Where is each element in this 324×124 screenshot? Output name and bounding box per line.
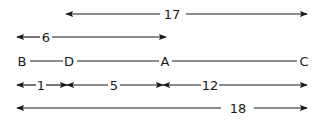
measure-label-ac: 12 xyxy=(202,78,219,93)
measure-label-dc: 17 xyxy=(164,7,181,22)
measure-label-ba: 6 xyxy=(42,30,50,45)
measure-bd-1: 1 xyxy=(17,78,67,93)
segment-diagram: 17 6 B D A C 1 5 12 18 xyxy=(0,0,324,124)
measure-dc-17: 17 xyxy=(66,7,307,22)
measure-da-5: 5 xyxy=(67,78,163,93)
measure-ac-12: 12 xyxy=(163,78,307,93)
measure-label-da: 5 xyxy=(110,78,118,93)
point-a: A xyxy=(161,54,170,69)
measure-ba-6: 6 xyxy=(17,30,166,45)
measure-label-bd: 1 xyxy=(37,78,45,93)
point-c: C xyxy=(299,54,308,69)
main-segment: B D A C xyxy=(18,54,309,69)
measure-bc-18: 18 xyxy=(17,101,307,116)
measure-label-bc: 18 xyxy=(230,101,247,116)
point-d: D xyxy=(64,54,74,69)
point-b: B xyxy=(18,54,27,69)
